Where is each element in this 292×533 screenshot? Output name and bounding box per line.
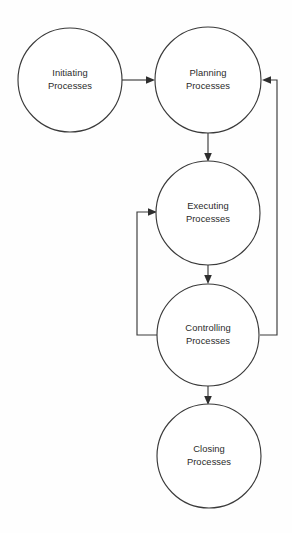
node-label-executing-line2: Processes [186, 213, 230, 224]
node-label-closing-line1: Closing [193, 443, 225, 454]
node-executing-processes[interactable]: Executing Processes [156, 161, 260, 265]
node-label-planning-line2: Processes [186, 80, 230, 91]
flow-diagram-canvas: Initiating Processes Planning Processes … [0, 0, 292, 533]
arrowhead-controlling-planning-feedback [262, 76, 271, 84]
connector-controlling-to-planning-feedback [260, 76, 277, 335]
node-label-executing-line1: Executing [187, 200, 229, 211]
node-label-controlling-line2: Processes [186, 335, 230, 346]
node-label-initiating-line2: Processes [48, 80, 92, 91]
connector-initiating-to-planning [122, 76, 155, 84]
arrowhead-executing-controlling [204, 275, 212, 284]
node-planning-processes[interactable]: Planning Processes [155, 27, 261, 133]
connector-executing-to-controlling [204, 265, 212, 284]
arrowhead-initiating-planning [146, 76, 155, 84]
connector-path-controlling-planning-feedback [260, 80, 277, 335]
connector-controlling-to-closing [204, 386, 212, 405]
node-initiating-processes[interactable]: Initiating Processes [18, 28, 122, 132]
connector-controlling-to-executing-feedback [137, 208, 158, 335]
connector-path-controlling-executing-feedback [137, 212, 158, 335]
node-label-closing-line2: Processes [187, 456, 231, 467]
connector-planning-to-executing [204, 133, 212, 162]
process-flow-diagram: Initiating Processes Planning Processes … [0, 0, 292, 533]
node-label-planning-line1: Planning [190, 67, 227, 78]
node-controlling-processes[interactable]: Controlling Processes [157, 284, 259, 386]
node-label-initiating-line1: Initiating [52, 67, 87, 78]
node-closing-processes[interactable]: Closing Processes [157, 404, 261, 508]
node-label-controlling-line1: Controlling [185, 322, 230, 333]
